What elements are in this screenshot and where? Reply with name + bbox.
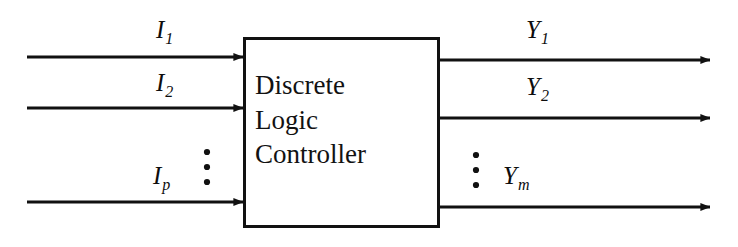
controller-block-label-line-3: Controller: [255, 137, 433, 172]
controller-block-label-line-1: Discrete: [255, 68, 433, 103]
input-label-ip: Ip: [153, 163, 169, 188]
input-label-ip-subscript: p: [162, 176, 170, 193]
controller-block-label-line-2: Logic: [255, 103, 433, 138]
output-label-ym-base: Y: [503, 162, 517, 189]
input-label-ip-base: I: [153, 162, 161, 189]
output-label-ym: Ym: [503, 163, 528, 188]
output-label-y2-base: Y: [526, 73, 540, 100]
output-label-y1-subscript: 1: [541, 30, 549, 47]
input-label-i1: I1: [156, 17, 172, 42]
input-label-i2-subscript: 2: [165, 83, 173, 100]
output-label-y2-subscript: 2: [541, 87, 549, 104]
input-label-i1-base: I: [156, 16, 164, 43]
output-arrow-group: [440, 60, 710, 207]
input-label-i2-base: I: [156, 69, 164, 96]
input-arrow-group: [27, 57, 243, 202]
output-label-y1-base: Y: [526, 16, 540, 43]
controller-block-label: Discrete Logic Controller: [255, 68, 433, 172]
input-vertical-ellipsis-icon: [204, 149, 210, 185]
output-label-y1: Y1: [526, 17, 548, 42]
input-label-i2: I2: [156, 70, 172, 95]
output-label-ym-subscript: m: [518, 176, 530, 193]
output-label-y2: Y2: [526, 74, 548, 99]
block-diagram-figure: Discrete Logic Controller I1 I2 Ip Y1 Y2…: [0, 0, 738, 247]
input-label-i1-subscript: 1: [165, 30, 173, 47]
output-vertical-ellipsis-icon: [473, 152, 479, 188]
